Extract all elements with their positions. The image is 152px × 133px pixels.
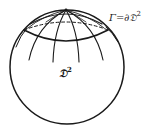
boundary-label-sup: 2 — [137, 10, 141, 18]
disk-label: 𝔇2 — [59, 66, 72, 79]
cap-boundary-back — [24, 22, 108, 30]
boundary-label: Γ=∂𝔇2 — [109, 11, 141, 23]
meridian-2 — [53, 10, 66, 62]
boundary-label-text: Γ=∂𝔇 — [109, 12, 137, 23]
meridian-3 — [66, 10, 79, 62]
disk-label-sup: 2 — [67, 65, 72, 74]
pole-point — [65, 9, 68, 12]
disk-label-text: 𝔇 — [59, 67, 67, 80]
